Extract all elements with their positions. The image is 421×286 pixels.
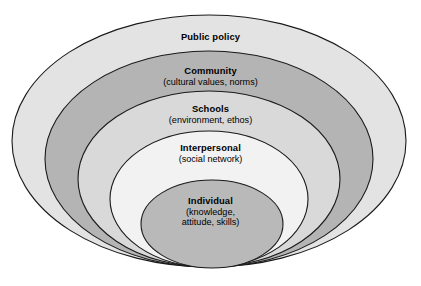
- concentric-ellipse-stack: [0, 0, 421, 286]
- ellipse-individual: [141, 180, 283, 268]
- socio-ecological-model-diagram: Public policy Community (cultural values…: [0, 0, 421, 286]
